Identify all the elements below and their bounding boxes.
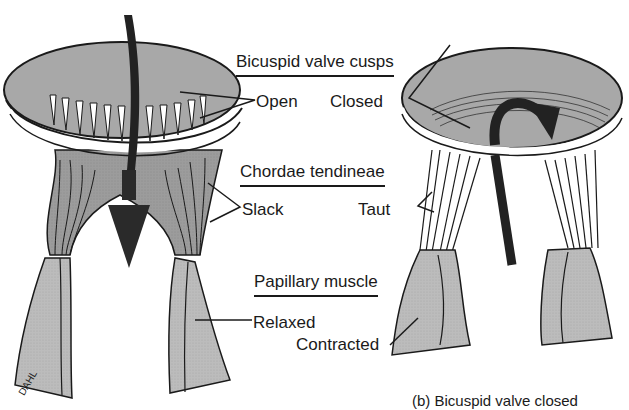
closed-valve (392, 48, 622, 355)
header-cusps: Bicuspid valve cusps (236, 52, 394, 77)
header-papillary: Papillary muscle (254, 272, 378, 297)
header-chordae: Chordae tendineae (240, 162, 385, 187)
label-slack: Slack (242, 200, 284, 220)
label-closed: Closed (330, 92, 383, 112)
open-valve (4, 15, 242, 398)
label-contracted: Contracted (296, 335, 379, 355)
label-open: Open (256, 92, 298, 112)
figure-caption: (b) Bicuspid valve closed (412, 392, 578, 410)
label-taut: Taut (358, 200, 390, 220)
label-relaxed: Relaxed (253, 313, 315, 333)
